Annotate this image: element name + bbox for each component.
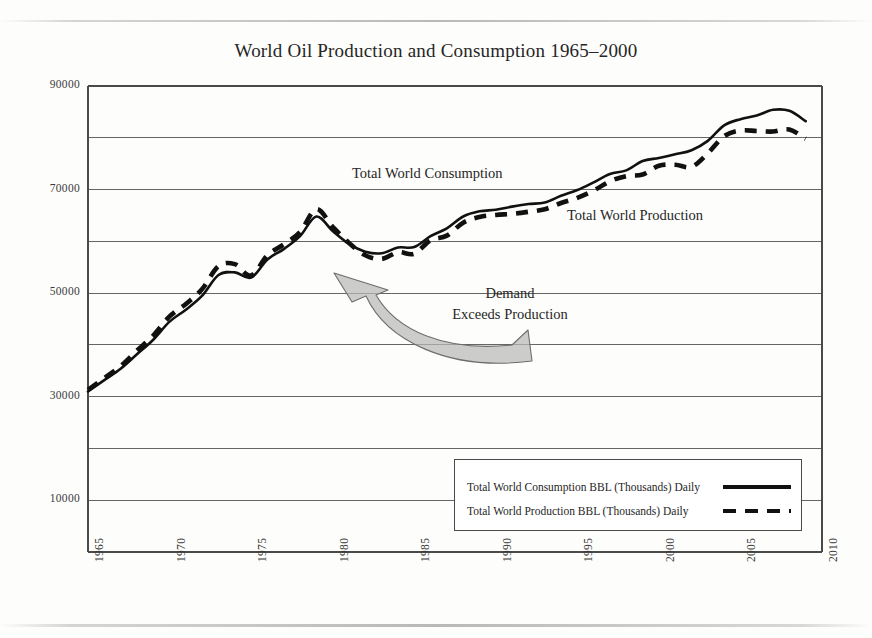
- legend-swatch-solid-line: [723, 485, 791, 489]
- x-axis-tick-label: 1990: [501, 538, 513, 562]
- legend-label-production: Total World Production BBL (Thousands) D…: [467, 505, 689, 517]
- chart-legend: Total World Consumption BBL (Thousands) …: [454, 459, 802, 531]
- callout-line-demand: Demand: [430, 285, 590, 302]
- x-axis-tick-label: 1985: [419, 538, 431, 562]
- legend-item-production: Total World Production BBL (Thousands) D…: [467, 501, 791, 521]
- y-axis-tick-label: 90000: [18, 78, 80, 90]
- annotation-total-world-production: Total World Production: [567, 207, 703, 224]
- x-axis-tick-label: 2010: [827, 538, 839, 562]
- scanned-page: World Oil Production and Consumption 196…: [0, 0, 872, 638]
- x-axis-tick-label: 2000: [664, 538, 676, 562]
- callout-line-exceeds-production: Exceeds Production: [430, 306, 590, 323]
- legend-label-consumption: Total World Consumption BBL (Thousands) …: [467, 481, 700, 493]
- x-axis-tick-label: 1965: [93, 538, 105, 562]
- x-axis-tick-label: 2005: [745, 538, 757, 562]
- x-axis-tick-label: 1995: [582, 538, 594, 562]
- x-axis-tick-label: 1980: [338, 538, 350, 562]
- annotation-total-world-consumption: Total World Consumption: [352, 165, 503, 182]
- x-axis-tick-label: 1970: [175, 538, 187, 562]
- legend-swatch-dashed-line: [723, 509, 791, 513]
- y-axis-tick-label: 70000: [18, 182, 80, 194]
- y-axis-tick-label: 10000: [18, 492, 80, 504]
- legend-item-consumption: Total World Consumption BBL (Thousands) …: [467, 477, 791, 497]
- y-axis-tick-label: 30000: [18, 389, 80, 401]
- x-axis-tick-label: 1975: [256, 538, 268, 562]
- y-axis-tick-label: 50000: [18, 285, 80, 297]
